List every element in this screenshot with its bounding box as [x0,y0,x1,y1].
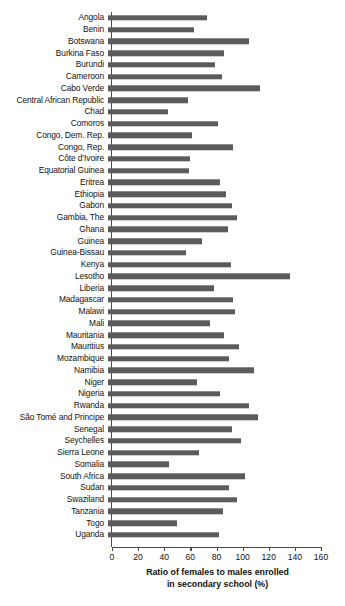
category-label: Côte d’Ivoire [0,154,108,163]
bar [108,227,228,232]
bar-row: South Africa [0,470,345,482]
bar-cell [108,470,345,482]
bar-cell [108,165,345,177]
bar-row: Seychelles [0,435,345,447]
bar-row: Mali [0,318,345,330]
x-tick [138,547,139,551]
category-label: Sudan [0,483,108,492]
bar-row: Mozambique [0,353,345,365]
category-label: Cabo Verde [0,84,108,93]
bar [108,509,223,514]
x-tick [112,547,113,551]
bar-cell [108,36,345,48]
bar [108,344,239,349]
category-label: São Tomé and Principe [0,413,108,422]
category-label: Nigeria [0,389,108,398]
category-label: Swaziland [0,495,108,504]
bar-cell [108,130,345,142]
bar-cell [108,188,345,200]
bar-row: Sierra Leone [0,447,345,459]
category-label: Burundi [0,60,108,69]
bar [108,121,218,126]
bar [108,262,231,267]
bar-cell [108,447,345,459]
bar-row: Cabo Verde [0,83,345,95]
bar [108,368,254,373]
bar [108,62,215,67]
category-label: Angola [0,13,108,22]
category-label: Mozambique [0,354,108,363]
x-tick-label: 40 [159,552,169,562]
bar-row: Eritrea [0,177,345,189]
bar-cell [108,318,345,330]
bar-cell [108,224,345,236]
category-label: Cameroon [0,72,108,81]
x-tick [164,547,165,551]
bar [108,462,169,467]
bar-cell [108,400,345,412]
bar [108,109,168,114]
bar-row: Burkina Faso [0,47,345,59]
bar-cell [108,329,345,341]
bar [108,86,260,91]
category-label: Malawi [0,307,108,316]
category-label: Namibia [0,366,108,375]
bar-row: Swaziland [0,494,345,506]
category-label: Liberia [0,284,108,293]
bar [108,356,229,361]
category-label: Congo, Dem. Rep. [0,131,108,140]
bar-row: Congo, Dem. Rep. [0,130,345,142]
bar-cell [108,435,345,447]
category-label: Togo [0,519,108,528]
bar-row: Chad [0,106,345,118]
bar-row: Sudan [0,482,345,494]
bar-cell [108,71,345,83]
bar-row: Tanzania [0,506,345,518]
x-axis-title-line1: Ratio of females to males enrolled [100,567,335,579]
bar [108,238,202,243]
bar-row: Comoros [0,118,345,130]
bar-row: Nigeria [0,388,345,400]
bar-cell [108,482,345,494]
bar [108,297,233,302]
x-tick [269,547,270,551]
bar [108,156,190,161]
bar [108,27,194,32]
x-tick [243,547,244,551]
category-label: Guinea [0,237,108,246]
bar-cell [108,341,345,353]
category-label: Seychelles [0,436,108,445]
bar [108,520,177,525]
category-label: Gambia, The [0,213,108,222]
bar-cell [108,259,345,271]
bar [108,426,232,431]
category-label: Niger [0,378,108,387]
x-axis-title: Ratio of females to males enrolled in se… [100,567,335,590]
bar-row: Cameroon [0,71,345,83]
bar-row: Equatorial Guinea [0,165,345,177]
bar [108,74,222,79]
category-label: Ghana [0,225,108,234]
bar-cell [108,47,345,59]
bar [108,97,188,102]
bar [108,144,233,149]
bar-row: Uganda [0,529,345,541]
bar-cell [108,271,345,283]
bar [108,203,232,208]
bar-row: Lesotho [0,271,345,283]
bar-rows: AngolaBeninBotswanaBurkina FasoBurundiCa… [0,12,345,541]
x-tick-label: 140 [288,552,302,562]
category-label: Ethiopia [0,190,108,199]
bar-cell [108,423,345,435]
category-label: Mali [0,319,108,328]
x-tick-label: 60 [186,552,196,562]
category-label: Rwanda [0,401,108,410]
bar-cell [108,376,345,388]
x-tick [217,547,218,551]
category-label: Guinea-Bissau [0,248,108,257]
bar [108,285,214,290]
bar [108,379,197,384]
bar-cell [108,529,345,541]
bar [108,321,210,326]
bar-row: Madagascar [0,294,345,306]
